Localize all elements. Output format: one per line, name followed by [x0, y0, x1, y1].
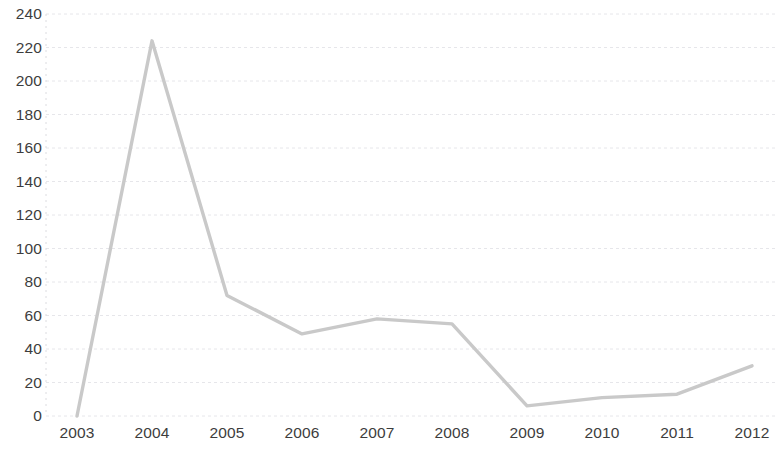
- x-tick-label: 2004: [135, 425, 170, 441]
- series-line: [77, 41, 752, 416]
- x-tick-label: 2008: [435, 425, 470, 441]
- y-tick-label: 20: [25, 375, 42, 391]
- x-tick-label: 2011: [660, 425, 694, 441]
- y-tick-label: 0: [33, 408, 42, 424]
- y-tick-label: 200: [16, 73, 42, 89]
- x-tick-label: 2007: [360, 425, 395, 441]
- plot-area: [0, 0, 782, 449]
- y-tick-label: 120: [16, 207, 42, 223]
- x-axis-labels: 2003200420052006200720082009201020112012: [0, 425, 782, 449]
- line-chart: 020406080100120140160180200220240 200320…: [0, 0, 782, 449]
- y-tick-label: 100: [16, 241, 42, 257]
- x-tick-label: 2012: [735, 425, 770, 441]
- y-tick-label: 220: [16, 40, 42, 56]
- x-tick-label: 2005: [210, 425, 245, 441]
- gridlines: [46, 14, 775, 416]
- y-tick-label: 140: [16, 174, 42, 190]
- x-tick-label: 2010: [585, 425, 620, 441]
- y-tick-label: 160: [16, 140, 42, 156]
- y-tick-label: 240: [16, 6, 42, 22]
- data-line-series: [77, 41, 752, 416]
- x-tick-label: 2003: [60, 425, 95, 441]
- y-tick-label: 80: [25, 274, 42, 290]
- y-axis-labels: 020406080100120140160180200220240: [0, 0, 46, 449]
- chart-canvas: [0, 0, 782, 449]
- y-tick-label: 60: [25, 308, 42, 324]
- y-tick-label: 180: [16, 107, 42, 123]
- x-tick-label: 2009: [510, 425, 545, 441]
- y-tick-label: 40: [25, 341, 42, 357]
- x-tick-label: 2006: [285, 425, 320, 441]
